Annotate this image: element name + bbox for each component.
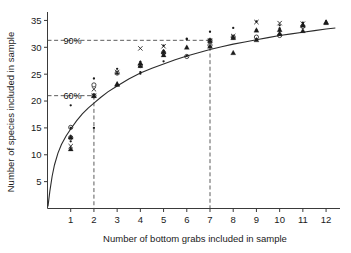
data-point-dot [255, 29, 257, 31]
marker-dot [186, 38, 188, 40]
y-tick-label: 30 [31, 42, 42, 53]
data-point-dot [186, 55, 188, 57]
marker-dot [278, 24, 280, 26]
fitted-curve-path [48, 28, 335, 206]
data-point-triangle [115, 82, 120, 87]
x-tick-label: 6 [184, 214, 189, 225]
chart-canvas: 5101520253035123456789101112 60%90% Numb… [0, 0, 351, 253]
y-tick-label: 20 [31, 95, 42, 106]
x-tick-label: 4 [138, 214, 143, 225]
data-point-triangle [68, 146, 73, 151]
data-point-dot [93, 94, 95, 96]
y-tick-label: 15 [31, 122, 42, 133]
marker-triangle [115, 82, 120, 87]
data-points-group [68, 20, 328, 151]
marker-dot [70, 140, 72, 142]
x-tick-label: 9 [254, 214, 259, 225]
data-point-triangle [231, 50, 236, 55]
tick-labels-group: 5101520253035123456789101112 [31, 15, 331, 225]
data-point-dot [116, 72, 118, 74]
data-point-dot [302, 24, 304, 26]
marker-triangle [231, 50, 236, 55]
data-point-dot [232, 27, 234, 29]
x-tick-label: 11 [298, 214, 308, 225]
marker-circle [92, 83, 96, 87]
marker-dot [255, 38, 257, 40]
marker-dot [139, 72, 141, 74]
data-point-dot [255, 20, 257, 22]
data-point-dot [70, 104, 72, 106]
y-tick-label: 10 [31, 149, 42, 160]
marker-dot [325, 20, 327, 22]
x-tick-label: 3 [114, 214, 119, 225]
marker-dot [255, 29, 257, 31]
x-tick-label: 10 [274, 214, 285, 225]
species-accumulation-chart: 5101520253035123456789101112 60%90% Numb… [0, 0, 351, 253]
x-tick-label: 5 [161, 214, 166, 225]
marker-dot [70, 127, 72, 129]
data-point-cross [92, 87, 96, 91]
data-point-cross [138, 46, 142, 50]
data-point-dot [278, 24, 280, 26]
data-point-dot [232, 35, 234, 37]
marker-dot [186, 55, 188, 57]
data-point-dot [162, 49, 164, 51]
data-point-dot [162, 45, 164, 47]
reference-labels-group: 60%90% [64, 36, 82, 101]
data-point-dot [209, 31, 211, 33]
axes-group [48, 12, 341, 209]
y-tick-label: 35 [31, 15, 42, 26]
reference-label: 60% [64, 91, 82, 101]
marker-dot [232, 27, 234, 29]
marker-dot [139, 61, 141, 63]
data-point-dot [70, 127, 72, 129]
data-point-dot [278, 34, 280, 36]
marker-dot [116, 68, 118, 70]
data-point-circle [92, 83, 96, 87]
y-tick-label: 25 [31, 69, 42, 80]
x-tick-label: 7 [207, 214, 212, 225]
data-point-dot [209, 39, 211, 41]
data-point-dot [255, 38, 257, 40]
fitted-curve [48, 28, 335, 206]
data-point-dot [93, 77, 95, 79]
data-point-dot [70, 140, 72, 142]
marker-triangle [300, 28, 305, 33]
data-point-dot [186, 46, 188, 48]
marker-triangle [68, 146, 73, 151]
reference-lines-group [48, 40, 211, 208]
marker-dot [93, 94, 95, 96]
x-tick-label: 12 [321, 214, 332, 225]
marker-dot [186, 46, 188, 48]
marker-dot [278, 34, 280, 36]
data-point-dot [162, 60, 164, 62]
marker-dot [116, 72, 118, 74]
data-point-dot [93, 127, 95, 129]
x-tick-label: 8 [231, 214, 236, 225]
marker-dot [93, 77, 95, 79]
x-axis-title: Number of bottom grabs included in sampl… [103, 233, 287, 244]
marker-dot [162, 60, 164, 62]
x-tick-label: 1 [68, 214, 73, 225]
data-point-triangle [300, 28, 305, 33]
marker-dot [209, 39, 211, 41]
data-point-dot [139, 72, 141, 74]
marker-dot [162, 45, 164, 47]
marker-dot [70, 104, 72, 106]
y-tick-label: 5 [36, 176, 41, 187]
marker-dot [302, 24, 304, 26]
data-point-dot [325, 20, 327, 22]
x-tick-label: 2 [91, 214, 96, 225]
y-axis-title: Number of species included in sample [5, 32, 16, 193]
marker-dot [278, 27, 280, 29]
marker-dot [93, 127, 95, 129]
marker-dot [255, 20, 257, 22]
data-point-dot [139, 61, 141, 63]
reference-label: 90% [64, 36, 82, 46]
marker-dot [232, 35, 234, 37]
marker-dot [162, 49, 164, 51]
data-point-dot [116, 68, 118, 70]
marker-dot [209, 31, 211, 33]
data-point-dot [278, 27, 280, 29]
data-point-dot [186, 38, 188, 40]
